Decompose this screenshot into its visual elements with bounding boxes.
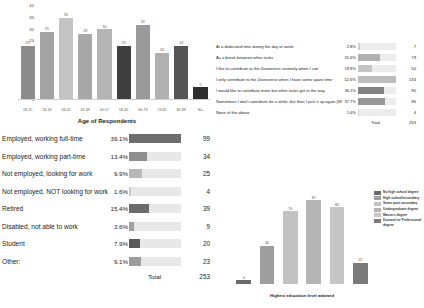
age-bar	[21, 46, 35, 99]
employment-bar-track	[129, 152, 181, 161]
education-bar-chart: 44076878022 Highest education level atta…	[228, 182, 424, 306]
contribution-count: 4	[396, 110, 423, 115]
table-row: Other:9.1%23	[2, 253, 216, 271]
table-row: I would like to contribute more but othe…	[216, 85, 422, 96]
education-bar-value-label: 80	[335, 203, 339, 207]
age-bar	[59, 18, 73, 99]
employment-bar-fill	[129, 169, 142, 178]
education-plot-area: 44076878022	[232, 188, 372, 284]
education-bar	[236, 280, 250, 284]
employment-percent: 9.1%	[106, 258, 128, 265]
age-bar-value-label: 23	[26, 41, 30, 45]
contribution-count: 79	[396, 55, 423, 60]
employment-total-row: Total 253	[2, 270, 216, 282]
age-x-tick-label: 82-89	[172, 108, 191, 112]
age-x-axis-labels: 18-2526-3334-4142-4950-5758-6566-7374-81…	[18, 108, 210, 112]
age-bar-value-label: 23	[122, 41, 126, 45]
contribution-percent: 31.6%	[342, 55, 356, 60]
legend-item: High school/secondary	[374, 196, 424, 201]
employment-answer-label: Other:	[2, 258, 106, 265]
contribution-bar-fill	[358, 109, 359, 116]
contribution-bar-track	[358, 98, 396, 105]
age-bar-column: 20	[152, 6, 171, 99]
age-bar-value-label: 5	[199, 83, 201, 87]
education-bar-column: 87	[302, 188, 325, 284]
education-bar-column: 4	[232, 188, 255, 284]
employment-bar-track	[129, 169, 181, 178]
education-bar-column: 40	[255, 188, 278, 284]
education-bar-value-label: 4	[243, 276, 245, 280]
age-bar	[117, 46, 131, 99]
contribution-bar-track	[358, 109, 396, 116]
employment-answer-label: Employed, working full-time	[2, 135, 106, 142]
employment-percent: 9.9%	[106, 170, 128, 177]
age-bar-value-label: 32	[141, 20, 145, 24]
table-row: Retired15.4%39	[2, 200, 216, 218]
employment-answer-label: Not employed, NOT looking for work	[2, 188, 106, 195]
contribution-bar-track	[358, 65, 396, 72]
employment-count: 34	[181, 153, 216, 160]
contribution-percent: 1.6%	[342, 110, 356, 115]
table-row: Disabled, not able to work3.6%9	[2, 218, 216, 236]
employment-count: 20	[181, 240, 216, 247]
employment-bar-track	[129, 222, 181, 231]
employment-total-label: Total	[128, 273, 181, 280]
age-bar	[136, 25, 150, 99]
employment-answer-label: Disabled, not able to work	[2, 223, 106, 230]
contribution-answer-label: I would like to contribute more but othe…	[216, 88, 342, 93]
age-bar	[97, 29, 111, 99]
legend-label: Doctoral or Professional degree	[383, 218, 424, 226]
contribution-bar-fill	[358, 54, 381, 61]
contribution-bar-fill	[358, 43, 360, 50]
age-bar-column: 29	[37, 6, 56, 99]
legend-swatch	[374, 202, 381, 206]
age-bar-column: 28	[76, 6, 95, 99]
table-row: None of the above1.6%4	[216, 107, 422, 118]
age-x-tick-label: 34-41	[56, 108, 75, 112]
contribution-bar-fill	[358, 65, 372, 72]
survey-report-page: 4035302520151050 2329352830233220235 18-…	[0, 0, 424, 308]
age-bar	[193, 87, 207, 99]
employment-bar-fill	[129, 134, 181, 143]
contribution-bar-fill	[358, 87, 384, 94]
employment-answer-label: Retired	[2, 205, 106, 212]
legend-item: Doctoral or Professional degree	[374, 218, 424, 226]
legend-item: Undergraduate degree	[374, 207, 424, 212]
contribution-answer-label: Sometimes I don't contribute for a while…	[216, 99, 342, 104]
age-bar-value-label: 30	[102, 25, 106, 29]
age-bar-column: 23	[18, 6, 37, 99]
age-x-tick-label: 74-81	[152, 108, 171, 112]
employment-percent: 1.6%	[106, 188, 128, 195]
contribution-answer-label: As a break between other tasks	[216, 55, 342, 60]
contribution-count: 7	[396, 44, 423, 49]
education-bar-column: 76	[279, 188, 302, 284]
age-bar-column: 23	[172, 6, 191, 99]
employment-answer-label: Employed, working part-time	[2, 153, 106, 160]
age-bar-column: 35	[56, 6, 75, 99]
age-x-tick-label: 26-33	[37, 108, 56, 112]
legend-swatch	[374, 219, 381, 223]
employment-count: 9	[181, 223, 216, 230]
employment-count: 99	[181, 135, 216, 142]
table-row: At a dedicated time during the day or we…	[216, 41, 422, 52]
contribution-percent: 2.8%	[342, 44, 356, 49]
contribution-bar-track	[358, 87, 396, 94]
legend-swatch	[374, 213, 381, 217]
table-row: I only contribute to the Zooniverse when…	[216, 74, 422, 85]
contribution-count: 96	[396, 99, 423, 104]
age-bar-column: 23	[114, 6, 133, 99]
education-x-axis-title: Highest education level attained	[228, 293, 376, 298]
employment-total-value: 253	[181, 273, 216, 280]
age-x-axis-title: Age of Respondents	[0, 118, 214, 124]
employment-percent: 7.9%	[106, 240, 128, 247]
employment-count: 39	[181, 205, 216, 212]
age-x-tick-label: 58-65	[114, 108, 133, 112]
legend-item: Some post-secondary	[374, 201, 424, 206]
employment-bar-fill	[129, 187, 131, 196]
education-bar-column: 80	[325, 188, 348, 284]
age-bar	[40, 32, 54, 99]
table-row: Student7.9%20	[2, 235, 216, 253]
contribution-count: 50	[396, 66, 423, 71]
contribution-bar-track	[358, 43, 396, 50]
employment-bar-fill	[129, 204, 149, 213]
